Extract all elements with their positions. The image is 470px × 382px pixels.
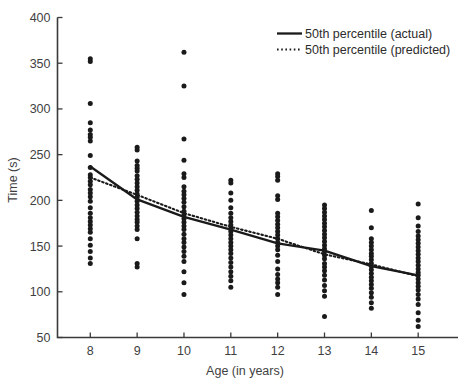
scatter-chart: 50100150200250300350400 89101112131415 A… [0, 0, 470, 382]
scatter-points-layer [88, 50, 421, 329]
scatter-point [181, 244, 186, 249]
scatter-point [416, 223, 421, 228]
scatter-point [369, 225, 374, 230]
scatter-point [322, 268, 327, 273]
scatter-point [416, 310, 421, 315]
series-line-predicted [90, 178, 418, 277]
scatter-point [88, 101, 93, 106]
scatter-point [416, 302, 421, 307]
scatter-point [275, 253, 280, 258]
scatter-point [135, 227, 140, 232]
scatter-point [416, 215, 421, 220]
axis-lines [58, 18, 459, 338]
x-axis-ticks: 89101112131415 [87, 333, 425, 358]
y-tick-label: 400 [30, 11, 51, 25]
scatter-point [181, 292, 186, 297]
scatter-point [322, 283, 327, 288]
scatter-point [228, 265, 233, 270]
chart-legend: 50th percentile (actual) 50th percentile… [277, 27, 450, 57]
x-tick-label: 14 [364, 344, 378, 358]
scatter-point [88, 182, 93, 187]
y-tick-label: 200 [30, 194, 51, 208]
y-tick-label: 150 [30, 240, 51, 254]
x-tick-label: 13 [318, 344, 332, 358]
scatter-point [135, 265, 140, 270]
scatter-point [181, 259, 186, 264]
x-tick-label: 12 [271, 344, 285, 358]
y-tick-label: 50 [37, 331, 51, 345]
scatter-point [228, 274, 233, 279]
scatter-point [416, 287, 421, 292]
scatter-point [181, 280, 186, 285]
scatter-point [228, 180, 233, 185]
scatter-point [88, 249, 93, 254]
scatter-point [181, 84, 186, 89]
scatter-point [228, 269, 233, 274]
x-tick-label: 15 [411, 344, 425, 358]
scatter-point [416, 292, 421, 297]
scatter-point [228, 255, 233, 260]
scatter-point [369, 208, 374, 213]
scatter-point [181, 254, 186, 259]
scatter-point [322, 277, 327, 282]
scatter-point [88, 127, 93, 132]
scatter-point [88, 194, 93, 199]
scatter-point [369, 290, 374, 295]
scatter-point [181, 200, 186, 205]
scatter-point [416, 202, 421, 207]
y-tick-label: 100 [30, 285, 51, 299]
scatter-point [369, 306, 374, 311]
scatter-point [181, 232, 186, 237]
x-tick-label: 11 [224, 344, 237, 358]
scatter-point [88, 211, 93, 216]
scatter-point [135, 159, 140, 164]
scatter-point [322, 256, 327, 261]
y-tick-label: 300 [30, 102, 51, 116]
scatter-point [322, 314, 327, 319]
y-tick-label: 250 [30, 148, 51, 162]
scatter-point [88, 120, 93, 125]
scatter-point [88, 230, 93, 235]
scatter-point [88, 138, 93, 143]
scatter-point [135, 236, 140, 241]
x-axis-title: Age (in years) [206, 364, 284, 378]
scatter-point [275, 259, 280, 264]
scatter-point [369, 300, 374, 305]
scatter-point [275, 285, 280, 290]
scatter-point [369, 295, 374, 300]
x-tick-label: 9 [134, 344, 141, 358]
scatter-point [275, 197, 280, 202]
scatter-point [181, 137, 186, 142]
scatter-point [181, 204, 186, 209]
scatter-point [181, 249, 186, 254]
scatter-point [181, 240, 186, 245]
scatter-point [88, 199, 93, 204]
scatter-point [322, 288, 327, 293]
scatter-point [228, 191, 233, 196]
scatter-point [322, 294, 327, 299]
scatter-point [275, 247, 280, 252]
scatter-point [275, 272, 280, 277]
legend-label-predicted: 50th percentile (predicted) [305, 43, 450, 57]
scatter-point [181, 158, 186, 163]
scatter-point [88, 261, 93, 266]
scatter-point [228, 285, 233, 290]
y-axis-title: Time (s) [6, 157, 20, 202]
scatter-point [275, 266, 280, 271]
scatter-point [228, 211, 233, 216]
scatter-point [275, 280, 280, 285]
scatter-point [181, 269, 186, 274]
scatter-point [228, 260, 233, 265]
scatter-point [416, 297, 421, 302]
y-tick-label: 350 [30, 57, 51, 71]
legend-label-actual: 50th percentile (actual) [305, 27, 432, 41]
scatter-point [228, 278, 233, 283]
x-tick-label: 8 [87, 344, 94, 358]
scatter-point [181, 227, 186, 232]
scatter-point [135, 148, 140, 153]
scatter-point [322, 273, 327, 278]
scatter-point [228, 251, 233, 256]
scatter-point [369, 286, 374, 291]
scatter-point [275, 292, 280, 297]
scatter-point [416, 229, 421, 234]
